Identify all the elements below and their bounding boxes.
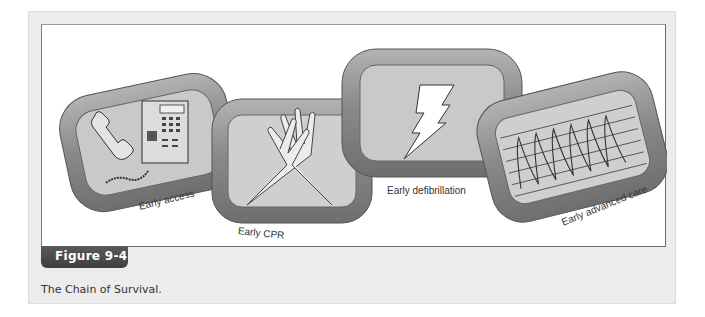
link-label-early-defibrillation: Early defibrillation — [387, 185, 466, 196]
chain-of-survival-illustration: Early access Early CPR Early defibrillat… — [41, 24, 666, 247]
figure-number-tab: Figure 9-4 — [41, 246, 128, 268]
figure-caption: The Chain of Survival. — [41, 283, 162, 296]
